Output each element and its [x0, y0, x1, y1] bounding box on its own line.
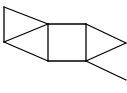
bond-line-a6-a7: [86, 43, 126, 61]
molecule-structure-diagram: [0, 0, 127, 93]
bond-line-a5-a7: [86, 24, 126, 43]
bond-line-a1-a3: [4, 7, 48, 24]
bond-lines: [4, 7, 126, 80]
bond-line-a2-a3: [4, 24, 48, 42]
bond-line-a6-a8: [86, 61, 126, 80]
bond-line-a2-a4: [4, 42, 48, 61]
